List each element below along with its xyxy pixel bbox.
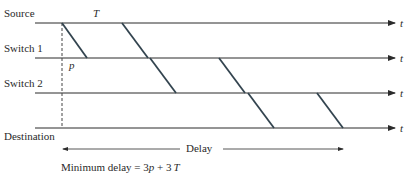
- transmission-time-label: T: [93, 7, 100, 19]
- t-label-source: t: [400, 17, 404, 29]
- row-label-source: Source: [4, 7, 35, 19]
- packet-source-tx: [122, 23, 148, 58]
- propagation-source-switch1: [62, 23, 87, 58]
- packet-switch2-tx: [317, 93, 343, 128]
- t-label-destination: t: [400, 122, 404, 134]
- row-label-switch1: Switch 1: [4, 42, 43, 54]
- time-axes: [35, 23, 395, 128]
- minimum-delay-formula: Minimum delay = 3p + 3T: [61, 161, 181, 173]
- packet-switch1-tx: [219, 58, 245, 93]
- row-label-destination: Destination: [4, 130, 55, 142]
- packet-switch1-arrive: [150, 58, 176, 93]
- packet-transmissions: [62, 23, 343, 128]
- delay-label: Delay: [186, 142, 213, 154]
- packet-switch2-arrive: [248, 93, 274, 128]
- t-label-switch1: t: [400, 52, 404, 64]
- t-label-switch2: t: [400, 87, 404, 99]
- propagation-delay-label: p: [68, 59, 75, 71]
- store-and-forward-timing-diagram: Source Switch 1 Switch 2 Destination t t…: [0, 0, 417, 183]
- row-label-switch2: Switch 2: [4, 77, 43, 89]
